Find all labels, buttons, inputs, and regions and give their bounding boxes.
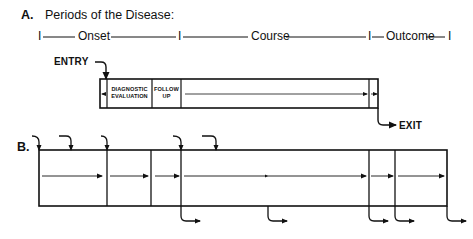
- exit-arrow-icon: [447, 206, 466, 221]
- exit-arrow-icon: [268, 206, 287, 221]
- exit-arrow-icon: [395, 206, 414, 221]
- entry-arrow-icon: [101, 136, 107, 150]
- section-b-box: [39, 150, 447, 206]
- entry-arrow-icon: [173, 136, 181, 150]
- exit-arrow-icon: [181, 206, 200, 221]
- section-a-box: [100, 79, 378, 108]
- diagram-canvas: [0, 0, 473, 239]
- entry-arrow-icon: [59, 136, 71, 150]
- entry-arrow-icon: [95, 62, 106, 79]
- exit-arrow-icon: [378, 108, 396, 125]
- section-b-entry-arrows: [32, 136, 216, 150]
- exit-arrow-icon: [369, 206, 388, 221]
- entry-arrow-icon: [202, 136, 216, 150]
- course-tick-marks: [265, 175, 268, 178]
- entry-arrow-icon: [32, 136, 39, 150]
- section-b-exit-arrows: [181, 206, 466, 221]
